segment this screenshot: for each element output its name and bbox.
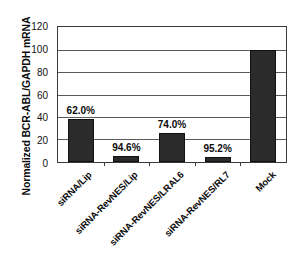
bar-value-label: 62.0% [67,105,95,116]
bar-slot: 95.2% [195,27,241,162]
x-axis-label: Mock [253,169,278,194]
bar-slot: 62.0% [58,27,104,162]
y-tick-label: 0 [42,158,48,169]
bar [68,119,94,162]
bar-slot: 74.0% [149,27,195,162]
bar-slot: 94.6% [104,27,150,162]
bar-series: 62.0%94.6%74.0%95.2% [58,27,286,162]
bar-slot [240,27,286,162]
plot-area: 62.0%94.6%74.0%95.2% [57,26,287,163]
bar [205,157,231,162]
y-tick-label: 60 [37,89,48,100]
bar [113,156,139,162]
bar [159,133,185,162]
y-axis-tick-labels: 120 100 80 60 40 20 0 [0,26,52,163]
x-axis-label: siRNA/Lip [54,169,93,208]
x-axis-category-labels: siRNA/LipsiRNA-RevNES/LipsiRNA-RevNES/LR… [57,163,287,276]
bar-value-label: 94.6% [112,142,140,153]
y-tick-label: 40 [37,112,48,123]
bar-value-label: 74.0% [158,119,186,130]
y-tick-label: 20 [37,135,48,146]
y-tick-label: 80 [37,66,48,77]
bar-chart: Normalized BCR-ABL/GAPDH mRNA 120 100 80… [0,0,306,276]
y-tick-label: 120 [31,21,48,32]
bar [250,50,276,163]
bar-value-label: 95.2% [203,143,231,154]
y-tick-label: 100 [31,43,48,54]
